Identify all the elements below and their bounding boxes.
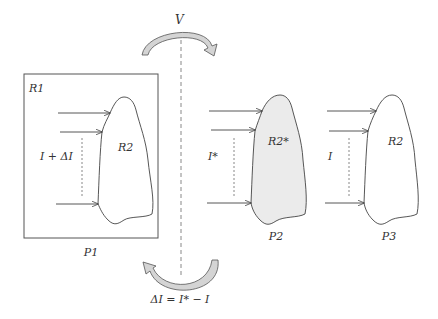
panel-label: P1 (83, 246, 98, 259)
current-label: I (327, 150, 333, 163)
panel-p2: R2* I* P2 (207, 95, 306, 243)
top-transition-label: V (175, 13, 185, 27)
body-shape-r2-star (251, 95, 306, 224)
shape-r2-star-label: R2* (267, 135, 289, 148)
body-shape-r2 (364, 95, 418, 224)
current-label: I* (207, 150, 218, 163)
body-shape-r2 (98, 97, 153, 224)
panel-label: P3 (381, 230, 396, 243)
region-r1-label: R1 (28, 82, 44, 95)
shape-r2-label: R2 (117, 141, 133, 154)
top-curved-arrow-icon (142, 32, 217, 56)
panel-label: P2 (268, 230, 283, 243)
current-label: I + ΔI (39, 150, 73, 163)
bottom-transition-label: ΔI = I* − I (150, 293, 211, 306)
panel-p3: R2 I P3 (325, 95, 418, 243)
panel-p1: R1 R2 I + ΔI P1 (24, 74, 158, 259)
shape-r2-label: R2 (387, 135, 403, 148)
diagram-canvas: V ΔI = I* − I R1 R2 I + ΔI P1 R2* I* P2 … (0, 0, 438, 319)
